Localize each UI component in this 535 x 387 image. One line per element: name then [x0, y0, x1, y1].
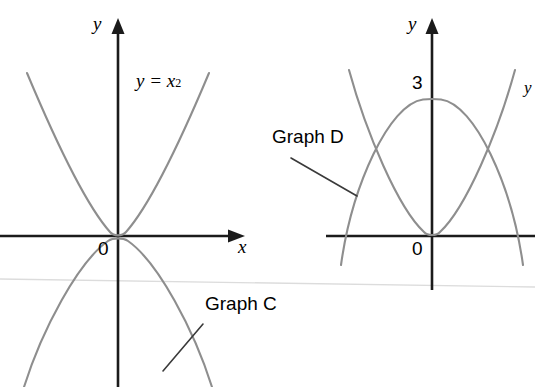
left-y-axis-arrow	[112, 18, 125, 34]
left-graph-panel	[0, 18, 245, 387]
graph-c-label: Graph C	[205, 293, 277, 315]
equation-exponent: 2	[175, 76, 181, 90]
right-y-axis-label: y	[408, 13, 416, 35]
left-y-axis-label: y	[93, 13, 101, 35]
graph-d-label: Graph D	[272, 126, 344, 148]
left-x-axis-label: x	[238, 236, 246, 258]
graph-d-leader-line	[291, 158, 357, 196]
parabola-figure: y x 0 y = x2 Graph C y 3 0 y Graph D	[0, 0, 535, 387]
left-origin-label: 0	[98, 238, 109, 260]
right-tick-label-3: 3	[412, 72, 423, 94]
right-origin-label: 0	[412, 238, 423, 260]
equation-label: y = x2	[136, 70, 181, 92]
right-y-axis-arrow	[426, 18, 439, 34]
right-curve-label: y	[524, 78, 532, 98]
scan-artifact-line	[0, 279, 535, 287]
